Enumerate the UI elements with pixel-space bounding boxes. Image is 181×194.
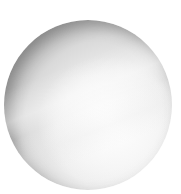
sphere bbox=[4, 20, 172, 190]
image-canvas bbox=[0, 0, 181, 194]
